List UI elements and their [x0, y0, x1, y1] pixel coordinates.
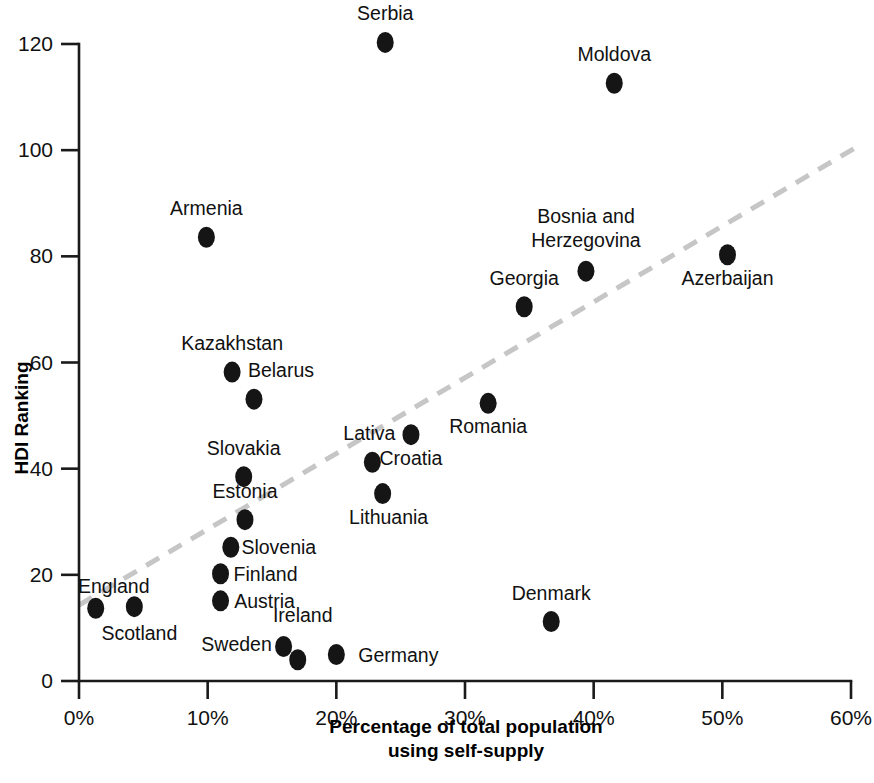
data-point[interactable]	[364, 452, 381, 473]
data-point-label: Armenia	[170, 197, 243, 219]
data-point-label: Belarus	[248, 359, 314, 381]
data-point[interactable]	[245, 389, 262, 410]
y-tick-label: 0	[41, 669, 53, 692]
data-point-label: Herzegovina	[531, 229, 641, 251]
data-point[interactable]	[212, 590, 229, 611]
scatter-chart: 020406080100120 0%10%20%30%40%50%60% Ser…	[0, 0, 874, 783]
data-point[interactable]	[87, 598, 104, 619]
data-point-label: England	[78, 575, 150, 597]
data-point[interactable]	[374, 483, 391, 504]
data-point[interactable]	[377, 32, 394, 53]
data-point-label: Scotland	[101, 622, 177, 644]
data-point[interactable]	[222, 537, 239, 558]
data-point-label: Georgia	[489, 267, 559, 289]
x-tick-label: 50%	[701, 706, 743, 729]
data-point-label: Slovenia	[241, 536, 316, 558]
x-axis-title-line2: using self-supply	[388, 740, 545, 761]
data-point-label: Slovakia	[207, 437, 281, 459]
data-point-label: Lithuania	[349, 506, 428, 528]
data-point-label: Denmark	[512, 582, 591, 604]
data-point[interactable]	[516, 296, 533, 317]
data-point-label: Kazakhstan	[181, 332, 283, 354]
data-point[interactable]	[577, 261, 594, 282]
data-point-label: Romania	[449, 415, 527, 437]
y-tick-label: 20	[30, 563, 53, 586]
axes-group	[61, 44, 851, 699]
data-point-label: Ireland	[273, 604, 333, 626]
y-tick-label: 40	[30, 457, 53, 480]
x-tick-label: 60%	[830, 706, 872, 729]
data-point[interactable]	[289, 649, 306, 670]
y-tick-label: 80	[30, 244, 53, 267]
data-point[interactable]	[275, 636, 292, 657]
data-point-label: Azerbaijan	[681, 267, 773, 289]
data-point-label: Bosnia and	[537, 205, 635, 227]
data-point[interactable]	[198, 227, 215, 248]
chart-canvas: 020406080100120 0%10%20%30%40%50%60% Ser…	[0, 0, 874, 783]
data-point-label: Lativa	[343, 422, 395, 444]
x-tick-label: 0%	[64, 706, 94, 729]
y-tick-label: 120	[18, 32, 53, 55]
data-point-labels-group: SerbiaMoldovaArmeniaBosnia andHerzegovin…	[78, 2, 774, 666]
x-axis-ticks	[79, 681, 851, 699]
data-point[interactable]	[719, 244, 736, 265]
data-point-label: Sweden	[201, 633, 271, 655]
data-point[interactable]	[606, 73, 623, 94]
data-point[interactable]	[543, 611, 560, 632]
y-tick-label: 100	[18, 138, 53, 161]
data-point[interactable]	[480, 393, 497, 414]
data-point-label: Estonia	[212, 480, 277, 502]
y-tick-label: 60	[30, 351, 53, 374]
data-point-label: Germany	[358, 644, 438, 666]
data-point[interactable]	[224, 362, 241, 383]
axis-lines	[79, 44, 851, 681]
y-axis-title: HDI Ranking	[11, 362, 32, 475]
data-point-label: Serbia	[357, 2, 414, 24]
data-point[interactable]	[126, 596, 143, 617]
data-point[interactable]	[402, 424, 419, 445]
data-point-label: Finland	[234, 563, 298, 585]
data-point-label: Croatia	[380, 447, 443, 469]
data-point[interactable]	[328, 644, 345, 665]
x-axis-title-line1: Percentage of total population	[329, 716, 602, 737]
data-point-label: Moldova	[577, 43, 651, 65]
data-point[interactable]	[212, 563, 229, 584]
y-axis-ticks	[61, 44, 79, 681]
x-tick-label: 10%	[187, 706, 229, 729]
data-point[interactable]	[236, 509, 253, 530]
